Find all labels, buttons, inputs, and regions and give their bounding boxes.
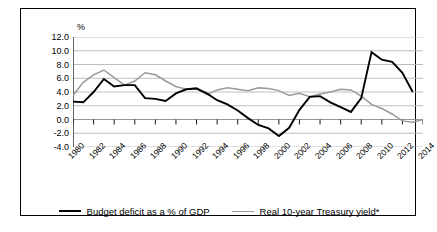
- chart-frame: % 12.010.08.06.04.02.00.0-2.0-4.0 198019…: [20, 8, 416, 216]
- legend-swatch-budget-deficit: [59, 210, 81, 212]
- y-tick-label: 6.0: [56, 73, 69, 83]
- legend-label-treasury-yield: Real 10-year Treasury yield*: [260, 206, 380, 217]
- y-tick-label: 10.0: [51, 46, 69, 56]
- chart-svg: [73, 37, 423, 147]
- y-tick-label: -4.0: [53, 142, 69, 152]
- legend-swatch-treasury-yield: [232, 211, 254, 212]
- y-axis-unit-label: %: [77, 22, 85, 32]
- legend-item-treasury-yield: Real 10-year Treasury yield*: [232, 206, 380, 217]
- chart-legend: Budget deficit as a % of GDP Real 10-yea…: [21, 201, 417, 221]
- y-tick-label: 4.0: [56, 87, 69, 97]
- y-tick-label: 0.0: [56, 115, 69, 125]
- y-axis-tick-labels: 12.010.08.06.04.02.00.0-2.0-4.0: [21, 37, 69, 147]
- legend-label-budget-deficit: Budget deficit as a % of GDP: [87, 206, 210, 217]
- x-axis-ticks: [73, 120, 423, 125]
- legend-item-budget-deficit: Budget deficit as a % of GDP: [59, 206, 210, 217]
- x-axis-tick-labels: 1980198219841986198819901992199419961998…: [73, 151, 423, 191]
- y-tick-label: 8.0: [56, 60, 69, 70]
- y-tick-label: 2.0: [56, 101, 69, 111]
- plot-area: [73, 37, 423, 147]
- y-tick-label: -2.0: [53, 128, 69, 138]
- y-tick-label: 12.0: [51, 32, 69, 42]
